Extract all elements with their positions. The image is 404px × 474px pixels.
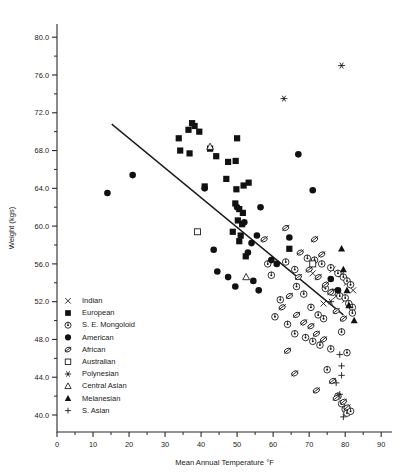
y-tick-label: 76.0 xyxy=(35,71,49,80)
marker-circle-dot-center xyxy=(326,369,328,371)
legend-item[interactable]: European xyxy=(65,308,114,317)
y-tick-label: 44.0 xyxy=(35,373,49,382)
legend-item-label: African xyxy=(82,345,105,354)
y-tick-label: 52.0 xyxy=(35,297,49,306)
marker-filled-square xyxy=(176,135,182,141)
y-tick-label: 60.0 xyxy=(35,222,49,231)
x-tick-label: 30 xyxy=(161,440,169,449)
marker-filled-circle xyxy=(268,257,275,264)
marker-filled-square xyxy=(213,153,219,159)
y-tick-label: 64.0 xyxy=(35,184,49,193)
marker-filled-square xyxy=(189,120,195,126)
marker-filled-circle xyxy=(309,187,316,194)
x-axis-ticks: 0102030405060708090 xyxy=(55,432,385,449)
x-tick-label: 80 xyxy=(341,440,349,449)
legend-item-label: American xyxy=(82,333,114,342)
plot-canvas: 40.044.048.052.056.060.064.068.072.076.0… xyxy=(0,0,404,474)
legend-item[interactable]: Australian xyxy=(65,357,115,366)
marker-filled-circle xyxy=(234,204,241,211)
series-european xyxy=(176,120,293,259)
series-american xyxy=(104,151,341,294)
x-tick-label: 70 xyxy=(305,440,313,449)
marker-filled-square xyxy=(233,186,239,192)
y-tick-label: 40.0 xyxy=(35,411,49,420)
legend-item[interactable]: American xyxy=(65,333,114,342)
marker-open-triangle xyxy=(243,274,250,280)
marker-circle-dot-center xyxy=(346,280,348,282)
marker-asterisk xyxy=(338,63,345,69)
marker-filled-circle xyxy=(65,334,71,340)
marker-circle-dot-center xyxy=(319,344,321,346)
marker-filled-square xyxy=(286,246,292,252)
marker-filled-square xyxy=(234,135,240,141)
marker-filled-circle xyxy=(210,246,217,253)
legend-item-label: Polynesian xyxy=(82,369,119,378)
marker-filled-circle xyxy=(104,190,111,197)
marker-circle-dot-center xyxy=(330,348,332,350)
marker-filled-square xyxy=(240,210,246,216)
marker-circle-dot-center xyxy=(267,263,269,265)
marker-circle-dot-center xyxy=(296,286,298,288)
marker-filled-square xyxy=(246,180,252,186)
legend-item[interactable]: Melanesian xyxy=(65,394,121,403)
marker-open-triangle xyxy=(65,383,71,389)
marker-filled-triangle xyxy=(65,395,71,401)
x-tick-label: 10 xyxy=(89,440,97,449)
marker-circle-dot-center xyxy=(294,333,296,335)
x-tick-label: 0 xyxy=(55,440,59,449)
marker-filled-square xyxy=(238,232,244,238)
y-tick-label: 80.0 xyxy=(35,33,49,42)
marker-circle-dot-center xyxy=(339,295,341,297)
y-tick-label: 68.0 xyxy=(35,146,49,155)
legend-item-label: European xyxy=(82,308,115,317)
marker-filled-circle xyxy=(214,268,221,275)
legend-item-label: Melanesian xyxy=(82,394,120,403)
legend-item-label: Indian xyxy=(82,296,102,305)
marker-filled-circle xyxy=(257,204,264,211)
x-tick-label: 50 xyxy=(233,440,241,449)
marker-asterisk xyxy=(281,96,288,102)
marker-filled-circle xyxy=(286,234,293,241)
marker-circle-dot-center xyxy=(270,274,272,276)
marker-open-square xyxy=(194,229,200,235)
marker-circle-dot-center xyxy=(67,324,69,326)
legend-item[interactable]: S. E. Mongoloid xyxy=(65,320,135,329)
marker-filled-circle xyxy=(250,278,257,285)
marker-plus xyxy=(338,363,344,369)
legend: IndianEuropeanS. E. MongoloidAmericanAfr… xyxy=(64,296,135,415)
marker-circle-dot-center xyxy=(312,340,314,342)
marker-filled-circle xyxy=(255,287,262,294)
marker-filled-square xyxy=(236,238,242,244)
marker-filled-triangle xyxy=(351,317,358,324)
marker-filled-square xyxy=(225,159,231,165)
regression-line xyxy=(112,124,344,315)
marker-plus xyxy=(65,408,71,414)
legend-item[interactable]: Central Asian xyxy=(65,381,127,390)
marker-plus xyxy=(338,372,344,378)
marker-filled-circle xyxy=(201,185,208,192)
marker-filled-square xyxy=(230,229,236,235)
marker-x xyxy=(65,298,71,304)
marker-filled-triangle xyxy=(338,245,345,252)
legend-item[interactable]: Indian xyxy=(65,296,102,305)
legend-item[interactable]: African xyxy=(64,345,105,354)
marker-filled-circle xyxy=(248,240,255,247)
marker-circle-dot-center xyxy=(330,267,332,269)
legend-item-label: S. E. Mongoloid xyxy=(82,320,135,329)
y-axis-ticks: 40.044.048.052.056.060.064.068.072.076.0… xyxy=(35,33,57,420)
legend-item[interactable]: S. Asian xyxy=(65,406,109,415)
marker-circle-dot-center xyxy=(305,337,307,339)
marker-circle-dot-center xyxy=(310,306,312,308)
marker-filled-square xyxy=(223,176,229,182)
marker-circle-dot-center xyxy=(317,314,319,316)
marker-circle-dot-center xyxy=(342,276,344,278)
marker-circle-dot-center xyxy=(321,263,323,265)
marker-filled-square xyxy=(196,129,202,135)
marker-filled-square xyxy=(177,147,183,153)
x-tick-label: 90 xyxy=(377,440,385,449)
marker-circle-dot-center xyxy=(350,284,352,286)
legend-item[interactable]: Polynesian xyxy=(65,369,119,378)
marker-filled-square xyxy=(185,127,191,133)
x-tick-label: 20 xyxy=(125,440,133,449)
marker-circle-dot-center xyxy=(274,316,276,318)
